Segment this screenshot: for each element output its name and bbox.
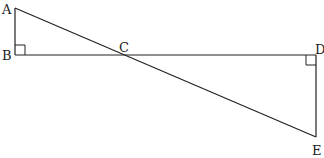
point-label-c: C <box>119 40 129 55</box>
segment-ae <box>15 8 316 137</box>
point-label-d: D <box>315 42 324 57</box>
right-angle-marker-b <box>15 45 25 55</box>
point-label-e: E <box>312 143 322 158</box>
geometry-diagram: A B C D E <box>0 0 324 158</box>
point-label-b: B <box>2 48 12 63</box>
point-label-a: A <box>1 2 12 17</box>
